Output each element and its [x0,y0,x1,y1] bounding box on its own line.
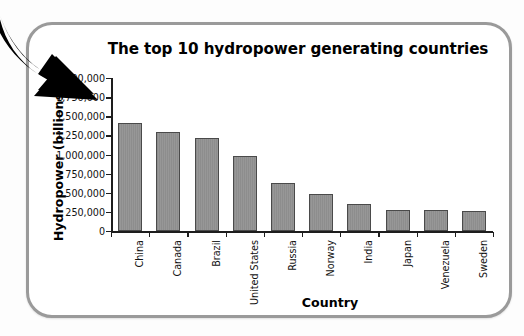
bar [195,138,219,231]
x-axis-category-label: Brazil [211,240,222,267]
y-axis-tick-labels: 0250,000500,000750,0001,000,0001,250,000… [30,78,105,231]
bar [156,132,180,231]
x-axis-category-label: Sweden [478,240,489,278]
x-axis-category-label: Venezuela [440,240,451,289]
y-axis-tick-label: 750,000 [35,168,105,179]
bar [309,194,333,231]
x-axis-tick-mark [187,232,188,237]
bar [233,156,257,231]
bar [118,123,142,231]
y-axis-tick-label: 500,000 [35,187,105,198]
y-axis-tick-label: 0 [35,226,105,237]
x-axis-category-label: Canada [172,240,183,277]
bar [271,183,295,231]
bar [462,211,486,231]
x-axis-tick-mark [340,232,341,237]
y-axis-tick-label: 1,000,000 [35,149,105,160]
x-axis-tick-mark [417,232,418,237]
x-axis-category-label: Russia [287,240,298,271]
x-axis-tick-mark [493,232,494,237]
x-axis-tick-mark [226,232,227,237]
plot-area [111,78,493,231]
x-axis-tick-mark [455,232,456,237]
x-axis-category-label: India [363,240,374,264]
x-axis-title: Country [160,295,500,310]
bar [347,204,371,231]
x-axis-category-label: Japan [402,240,413,267]
x-axis-tick-mark [264,232,265,237]
page-background: The top 10 hydropower generating countri… [0,0,524,336]
x-axis-tick-mark [149,232,150,237]
x-axis-category-label: China [134,240,145,267]
x-axis-tick-mark [378,232,379,237]
y-axis-tick-label: 2,000,000 [35,73,105,84]
y-axis-tick-label: 250,000 [35,206,105,217]
x-axis-tick-mark [302,232,303,237]
x-axis-category-label: Norway [325,240,336,276]
chart-title: The top 10 hydropower generating countri… [98,40,498,58]
x-axis-tick-mark [111,232,112,237]
y-axis-tick-label: 1,250,000 [35,130,105,141]
y-axis-tick-label: 1,500,000 [35,111,105,122]
chart-figure: The top 10 hydropower generating countri… [0,0,524,336]
y-axis-tick-label: 1,750,000 [35,92,105,103]
x-axis-category-label: United States [249,240,260,305]
bar [386,210,410,231]
bar [424,210,448,231]
